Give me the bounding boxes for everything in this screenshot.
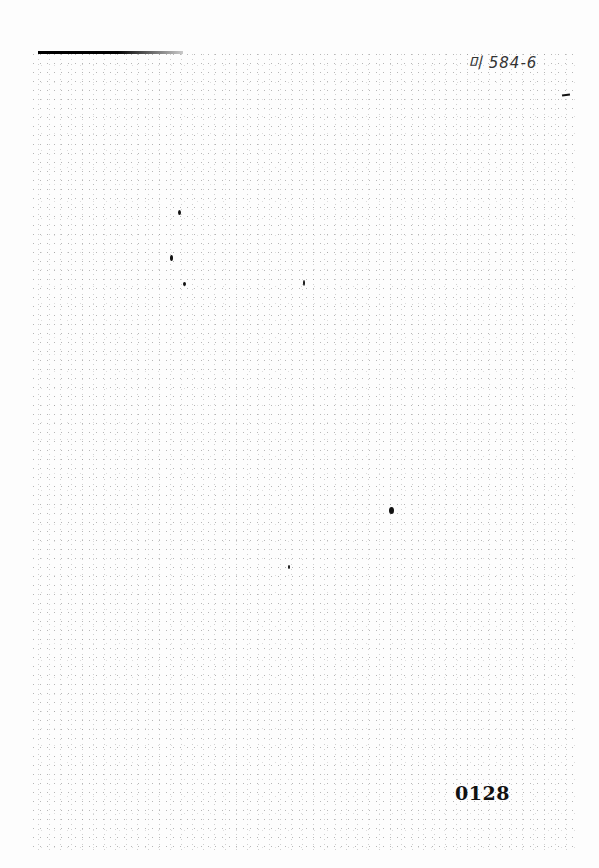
scanned-page: 미 584-6 0128 bbox=[0, 0, 599, 868]
ink-speck bbox=[288, 565, 290, 569]
ink-speck bbox=[170, 255, 173, 261]
top-rule-bar bbox=[38, 51, 183, 54]
ink-speck bbox=[303, 280, 305, 286]
page-number: 0128 bbox=[455, 782, 510, 804]
ink-speck bbox=[183, 282, 186, 286]
ink-speck bbox=[389, 507, 394, 514]
handwritten-reference-label: 미 584-6 bbox=[468, 51, 537, 72]
ink-speck bbox=[178, 210, 181, 215]
scan-noise bbox=[30, 50, 575, 850]
